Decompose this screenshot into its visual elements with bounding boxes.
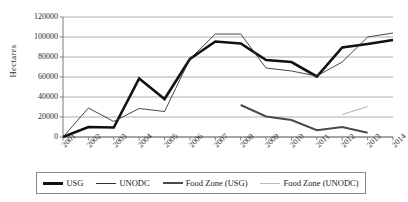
legend-item[interactable]: UNODC [96, 178, 149, 188]
y-axis-tick-label: 40000 [12, 93, 58, 101]
chart-legend: USGUNODCFood Zone (USG)Food Zone (UNODC) [36, 172, 366, 194]
legend-item[interactable]: Food Zone (UNODC) [260, 178, 358, 188]
y-axis-tick-label: 60000 [12, 73, 58, 81]
series-line [241, 105, 368, 133]
y-axis-tick-label: 80000 [12, 53, 58, 61]
legend-swatch-line-icon [163, 182, 183, 185]
legend-label: USG [66, 178, 83, 188]
legend-label: UNODC [119, 178, 149, 188]
legend-label: Food Zone (USG) [186, 178, 248, 188]
legend-swatch-line-icon [43, 182, 63, 185]
series-line [342, 107, 367, 115]
y-axis-tick-label: 20000 [12, 113, 58, 121]
y-axis-tick-label: 100000 [12, 33, 58, 41]
legend-swatch-line-icon [260, 183, 280, 184]
series-line [63, 40, 393, 137]
legend-label: Food Zone (UNODC) [283, 178, 358, 188]
legend-item[interactable]: Food Zone (USG) [163, 178, 248, 188]
y-axis-tick-label: 0 [12, 133, 58, 141]
legend-swatch-line-icon [96, 183, 116, 184]
y-axis-tick-label: 120000 [12, 13, 58, 21]
legend-item[interactable]: USG [43, 178, 83, 188]
